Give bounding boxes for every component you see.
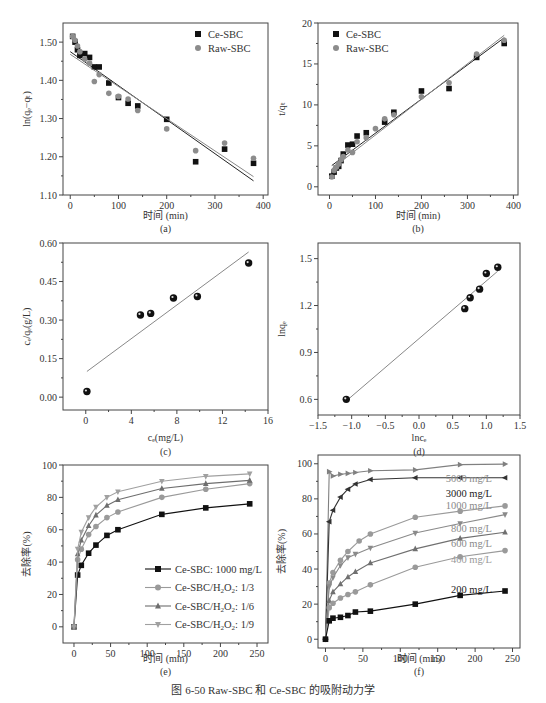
panel-caption: (c) xyxy=(160,446,171,458)
y-tick-label: 0.30 xyxy=(40,315,58,326)
y-axis-label: t/qₜ xyxy=(276,102,287,116)
chart-panel-d: −1.5−1.0−0.50.00.51.01.50.60.91.21.5lncₑ… xyxy=(276,243,526,458)
series-annotation: 1000 mg/L xyxy=(446,500,492,511)
figure-canvas: 01002003004001.101.201.301.401.50时间 (min… xyxy=(0,0,546,703)
y-tick-label: 1.10 xyxy=(40,190,58,201)
y-axis-label: 去除率(%) xyxy=(20,532,33,577)
x-tick-label: 1.0 xyxy=(480,420,493,431)
x-tick-label: −1.5 xyxy=(309,420,327,431)
x-tick-label: 0 xyxy=(83,415,88,426)
x-axis-label: 时间 (min) xyxy=(143,209,188,222)
plot-frame xyxy=(63,465,268,643)
panel-caption: (e) xyxy=(160,666,171,678)
legend-entry: Raw-SBC xyxy=(208,43,251,54)
series-annotation: 200 mg/L xyxy=(451,584,492,595)
legend-entry: Ce-SBC: 1000 mg/L xyxy=(175,564,262,575)
y-tick-label: 0 xyxy=(307,181,312,192)
x-tick-label: 50 xyxy=(358,653,368,664)
legend-entry: Ce-SBC xyxy=(346,29,381,40)
chart-panel-c: 04812160.000.150.300.450.60cₑ(mg/L)cₑ/qₑ… xyxy=(21,238,273,459)
chart-panel-e: 050100150200250020406080100时间 (min)去除率(%… xyxy=(20,460,268,679)
y-tick-label: 5 xyxy=(307,140,312,151)
x-axis-label: 时间 (min) xyxy=(396,209,441,222)
x-tick-label: 1.5 xyxy=(514,420,527,431)
x-tick-label: 0 xyxy=(327,200,332,211)
legend-entry: Ce-SBC xyxy=(208,29,243,40)
legend-entry: Ce-SBC/H2O2: 1/3 xyxy=(175,582,254,595)
x-tick-label: 0 xyxy=(71,648,76,659)
legend-entry: Raw-SBC xyxy=(346,43,389,54)
x-axis-label: 时间 (min) xyxy=(143,652,188,665)
y-tick-label: 0.60 xyxy=(40,238,58,249)
y-tick-label: 20 xyxy=(47,589,57,600)
y-tick-label: 1.5 xyxy=(300,253,313,264)
x-tick-label: −1.0 xyxy=(343,420,361,431)
y-tick-label: 100 xyxy=(297,458,312,469)
y-axis-label: cₑ/qₑ(g/L) xyxy=(21,308,33,346)
series-annotation: 800 mg/L xyxy=(451,523,492,534)
x-axis-label: 时间 (min) xyxy=(397,652,442,665)
panel-caption: (b) xyxy=(412,223,424,235)
x-tick-label: 50 xyxy=(106,648,116,659)
y-tick-label: 60 xyxy=(47,524,57,535)
plot-frame xyxy=(318,243,520,415)
y-tick-label: 1.20 xyxy=(40,151,58,162)
x-tick-label: 250 xyxy=(250,648,265,659)
chart-panel-f: 050100150200250020406080100时间 (min)去除率(%… xyxy=(275,455,520,678)
y-tick-label: 0.45 xyxy=(40,276,58,287)
x-tick-label: 300 xyxy=(460,200,475,211)
y-tick-label: 0.6 xyxy=(300,394,313,405)
x-tick-label: 200 xyxy=(213,648,228,659)
panel-caption: (f) xyxy=(414,666,424,678)
y-tick-label: 80 xyxy=(302,493,312,504)
y-tick-label: 0 xyxy=(52,621,57,632)
y-tick-label: 10 xyxy=(302,99,312,110)
y-tick-label: 80 xyxy=(47,492,57,503)
chart-panel-a: 01002003004001.101.201.301.401.50时间 (min… xyxy=(21,23,271,235)
x-tick-label: 0.0 xyxy=(413,420,426,431)
x-tick-label: 4 xyxy=(129,415,134,426)
y-tick-label: 20 xyxy=(302,599,312,610)
series-annotation: 600 mg/L xyxy=(451,538,492,549)
series-annotation: 3000 mg/L xyxy=(446,488,492,499)
x-tick-label: 200 xyxy=(468,653,483,664)
y-axis-label: 去除率(%) xyxy=(275,529,288,574)
y-tick-label: 15 xyxy=(302,58,312,69)
x-tick-label: 8 xyxy=(174,415,179,426)
y-tick-label: 1.40 xyxy=(40,75,58,86)
x-tick-label: −0.5 xyxy=(376,420,394,431)
y-tick-label: 1.50 xyxy=(40,37,58,48)
y-tick-label: 0.9 xyxy=(300,347,313,358)
y-tick-label: 1.30 xyxy=(40,113,58,124)
x-tick-label: 0 xyxy=(68,200,73,211)
x-axis-label: cₑ(mg/L) xyxy=(148,432,183,444)
legend-entry: Ce-SBC/H2O2: 1/6 xyxy=(175,601,254,614)
x-tick-label: 16 xyxy=(263,415,273,426)
y-tick-label: 100 xyxy=(42,460,57,471)
y-tick-label: 0.00 xyxy=(40,392,58,403)
y-tick-label: 20 xyxy=(302,18,312,29)
x-tick-label: 0 xyxy=(323,653,328,664)
chart-panel-b: 010020030040005101520时间 (min)t/qₜ(b)Ce-S… xyxy=(276,18,521,236)
y-tick-label: 1.2 xyxy=(300,300,313,311)
y-tick-label: 40 xyxy=(302,564,312,575)
x-tick-label: 0.5 xyxy=(446,420,459,431)
y-axis-label: lnqₑ xyxy=(276,321,287,337)
figure-caption: 图 6-50 Raw-SBC 和 Ce-SBC 的吸附动力学 xyxy=(0,681,546,697)
x-tick-label: 400 xyxy=(506,200,521,211)
x-tick-label: 300 xyxy=(207,200,222,211)
y-tick-label: 60 xyxy=(302,528,312,539)
x-tick-label: 100 xyxy=(368,200,383,211)
legend-entry: Ce-SBC/H2O2: 1/9 xyxy=(175,619,254,632)
series-annotation: 400 mg/L xyxy=(451,554,492,565)
x-tick-label: 250 xyxy=(505,653,520,664)
y-axis-label: ln(qₑ−qₜ) xyxy=(21,91,33,127)
series-annotation: 5000 mg/L xyxy=(446,473,492,484)
x-tick-label: 400 xyxy=(256,200,271,211)
x-axis-label: lncₑ xyxy=(412,432,427,443)
y-tick-label: 40 xyxy=(47,557,57,568)
x-tick-label: 12 xyxy=(217,415,227,426)
y-tick-label: 0.15 xyxy=(40,353,58,364)
panel-caption: (a) xyxy=(160,223,171,235)
panel-caption: (d) xyxy=(413,446,425,458)
